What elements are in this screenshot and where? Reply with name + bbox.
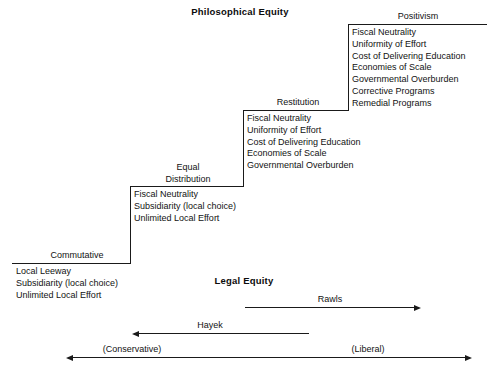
tier-label-equal-distribution-line2: Distribution <box>134 174 242 186</box>
hayek-arrow-head-left <box>132 331 139 337</box>
tier-label-equal-distribution: Equal Distribution <box>134 162 242 185</box>
spectrum-arrow-head-left <box>66 355 73 361</box>
rawls-label: Rawls <box>275 294 385 304</box>
tier-items-positivism: Fiscal Neutrality Uniformity of Effort C… <box>352 27 466 110</box>
tier-label-restitution-line1: Restitution <box>246 97 350 109</box>
list-item: Uniformity of Effort <box>247 125 361 137</box>
hayek-arrow-shaft <box>139 333 309 334</box>
list-item: Cost of Delivering Education <box>352 51 466 63</box>
list-item: Unlimited Local Effort <box>16 290 118 302</box>
list-item: Subsidiarity (local choice) <box>134 201 236 213</box>
tier-items-commutative: Local Leeway Subsidiarity (local choice)… <box>16 266 118 301</box>
liberal-label: (Liberal) <box>313 344 423 354</box>
list-item: Economies of Scale <box>247 148 361 160</box>
list-item: Local Leeway <box>16 266 118 278</box>
list-item: Uniformity of Effort <box>352 39 466 51</box>
spectrum-arrow-shaft <box>73 357 465 358</box>
list-item: Cost of Delivering Education <box>247 137 361 149</box>
spectrum-arrow-head-right <box>465 355 472 361</box>
tier-items-restitution: Fiscal Neutrality Uniformity of Effort C… <box>247 113 361 172</box>
restitution-left-rule <box>243 110 244 187</box>
tier-label-positivism: Positivism <box>351 11 485 23</box>
tier-items-equal-distribution: Fiscal Neutrality Subsidiarity (local ch… <box>134 189 236 224</box>
rawls-arrow-head-right <box>414 305 421 311</box>
tier-label-positivism-line1: Positivism <box>351 11 485 23</box>
list-item: Remedial Programs <box>352 98 466 110</box>
philosophical-equity-title: Philosophical Equity <box>170 6 310 17</box>
hayek-label: Hayek <box>155 320 265 330</box>
figure-canvas: Philosophical Equity Legal Equity Commut… <box>0 0 487 371</box>
list-item: Unlimited Local Effort <box>134 213 236 225</box>
tier-label-commutative: Commutative <box>22 250 132 262</box>
list-item: Fiscal Neutrality <box>134 189 236 201</box>
rawls-arrow-shaft <box>245 307 414 308</box>
list-item: Fiscal Neutrality <box>247 113 361 125</box>
list-item: Fiscal Neutrality <box>352 27 466 39</box>
commutative-top-rule <box>12 263 131 264</box>
list-item: Subsidiarity (local choice) <box>16 278 118 290</box>
tier-label-equal-distribution-line1: Equal <box>134 162 242 174</box>
list-item: Governmental Overburden <box>352 74 466 86</box>
list-item: Economies of Scale <box>352 62 466 74</box>
list-item: Corrective Programs <box>352 86 466 98</box>
tier-label-restitution: Restitution <box>246 97 350 109</box>
list-item: Governmental Overburden <box>247 160 361 172</box>
conservative-label: (Conservative) <box>77 344 187 354</box>
restitution-top-rule <box>243 110 349 111</box>
tier-label-commutative-line1: Commutative <box>22 250 132 262</box>
legal-equity-title: Legal Equity <box>196 275 292 286</box>
positivism-top-rule <box>348 24 487 25</box>
equal-distribution-top-rule <box>130 186 244 187</box>
